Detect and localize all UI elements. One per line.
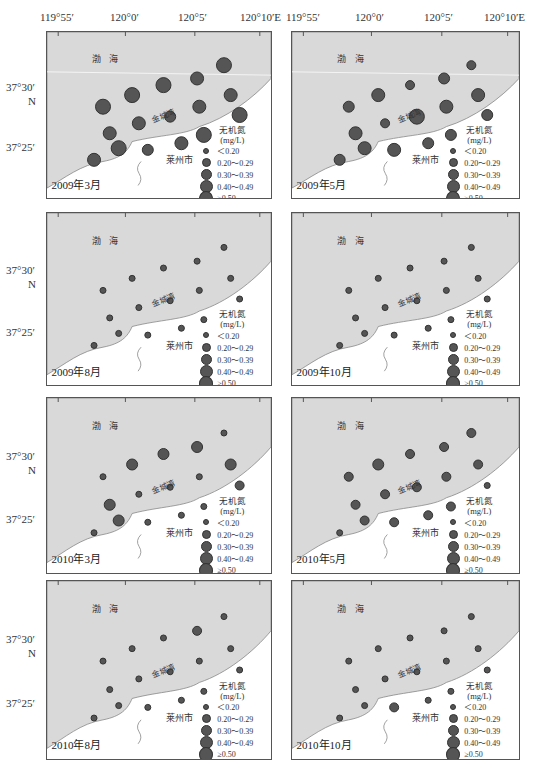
map-panel: 渤 海 金城湾 莱州市 2010年8月 无机氮 (mg/L) ＜0.200.20… [46, 580, 272, 760]
y-axis-unit: N [28, 647, 36, 659]
legend-item: 0.30～0.39 [446, 169, 500, 181]
station-marker [156, 78, 171, 93]
legend-label: 0.20～0.29 [464, 342, 500, 353]
station-marker [467, 61, 476, 70]
legend-title: 无机氮 [211, 309, 253, 319]
legend-dot-icon [449, 343, 458, 352]
map-panel: 渤 海 金城湾 莱州市 2010年10月 无机氮 (mg/L) ＜0.200.2… [291, 580, 520, 760]
legend-dot-icon [201, 354, 212, 365]
station-marker [111, 141, 126, 156]
legend-label: 0.30～0.39 [217, 169, 253, 180]
legend-dot-icon [448, 354, 459, 365]
legend-item: 0.20～0.29 [199, 157, 253, 169]
station-marker [353, 687, 359, 693]
x-tick-label: 119°55′ [40, 11, 74, 23]
station-marker [127, 459, 138, 470]
map-panel: 渤 海 金城湾 莱州市 2010年3月 无机氮 (mg/L) ＜0.200.20… [46, 397, 272, 574]
station-marker [360, 516, 369, 525]
legend-unit: (mg/L) [458, 319, 500, 329]
station-marker [221, 244, 227, 250]
x-tick-label: 120°5′ [424, 11, 453, 23]
legend-dot-icon [203, 519, 209, 525]
legend-dot-icon [448, 725, 459, 736]
station-marker [145, 519, 151, 525]
station-marker [439, 73, 450, 84]
station-marker [194, 258, 200, 264]
legend-item: ＜0.20 [446, 701, 500, 713]
legend: 无机氮 (mg/L) ＜0.200.20～0.290.30～0.390.40～0… [199, 496, 253, 574]
station-marker [100, 474, 106, 480]
station-marker [468, 244, 474, 250]
legend-unit: (mg/L) [458, 135, 500, 145]
station-marker [375, 646, 381, 652]
legend-item: 0.30～0.39 [446, 540, 500, 552]
panel-date: 2010年10月 [297, 736, 352, 752]
legend-unit: (mg/L) [211, 319, 253, 329]
station-marker [390, 518, 399, 527]
legend-label: ≥0.50 [217, 750, 235, 759]
legend-dot-icon [199, 747, 213, 760]
sea-label: 渤 海 [92, 52, 121, 65]
station-marker [472, 89, 485, 102]
sea-label: 渤 海 [337, 602, 366, 615]
legend-dot-icon [201, 725, 212, 736]
sea-label: 渤 海 [337, 234, 366, 247]
legend-title: 无机氮 [458, 496, 500, 506]
legend-dot-icon [448, 169, 459, 180]
station-marker [362, 703, 368, 709]
station-marker [337, 715, 343, 721]
legend-label: ≥0.50 [217, 566, 235, 575]
legend: 无机氮 (mg/L) ＜0.200.20～0.290.30～0.390.40～0… [446, 681, 500, 760]
station-marker [160, 635, 166, 641]
legend-dot-icon [199, 563, 213, 575]
legend-item: 0.30～0.39 [199, 353, 253, 365]
station-marker [125, 88, 140, 103]
station-marker [474, 460, 483, 469]
station-marker [406, 81, 415, 90]
sea-label: 渤 海 [337, 52, 366, 65]
legend-item: ≥0.50 [199, 564, 253, 574]
legend-label: ＜0.20 [217, 145, 239, 156]
legend-label: 0.40～0.49 [217, 737, 253, 748]
station-marker [235, 481, 244, 490]
y-axis-unit: N [28, 278, 36, 290]
legend-label: 0.20～0.29 [464, 529, 500, 540]
station-marker [337, 530, 343, 536]
legend-item: 0.30～0.39 [446, 353, 500, 365]
x-tick-label: 120°0′ [110, 11, 139, 23]
city-label: 莱州市 [412, 153, 439, 166]
legend-label: 0.30～0.39 [464, 169, 500, 180]
legend-label: 0.40～0.49 [464, 737, 500, 748]
legend-title: 无机氮 [458, 125, 500, 135]
panel-date: 2010年5月 [297, 550, 347, 566]
station-marker [91, 715, 97, 721]
y-tick-label: 37°30′ [6, 633, 35, 645]
map-panel: 渤 海 金城湾 莱州市 2009年5月 无机氮 (mg/L) ＜0.200.20… [291, 31, 520, 199]
legend-item: 0.30～0.39 [199, 725, 253, 737]
y-tick-label: 37°25′ [6, 513, 35, 525]
panel-date: 2009年5月 [297, 176, 347, 192]
legend-label: 0.30～0.39 [464, 541, 500, 552]
station-marker [107, 687, 113, 693]
legend-label: 0.20～0.29 [464, 713, 500, 724]
x-tick-label: 120°5′ [178, 11, 207, 23]
panel-date: 2009年3月 [51, 176, 101, 192]
legend-item: 0.20～0.29 [446, 157, 500, 169]
legend-label: ≥0.50 [464, 566, 482, 575]
legend-label: 0.20～0.29 [217, 157, 253, 168]
station-marker [196, 658, 202, 664]
legend-title: 无机氮 [211, 681, 253, 691]
legend: 无机氮 (mg/L) ＜0.200.20～0.290.30～0.390.40～0… [199, 309, 253, 386]
station-marker [467, 429, 476, 438]
station-marker [100, 658, 106, 664]
legend-unit: (mg/L) [458, 691, 500, 701]
station-marker [424, 511, 433, 520]
y-tick-label: 37°25′ [6, 141, 35, 153]
y-tick-label: 37°30′ [6, 264, 35, 276]
legend-dot-icon [199, 191, 213, 199]
legend-dot-icon [446, 747, 460, 760]
legend-unit: (mg/L) [458, 506, 500, 516]
station-marker [475, 275, 481, 281]
legend-dot-icon [448, 541, 459, 552]
city-label: 莱州市 [166, 711, 193, 724]
